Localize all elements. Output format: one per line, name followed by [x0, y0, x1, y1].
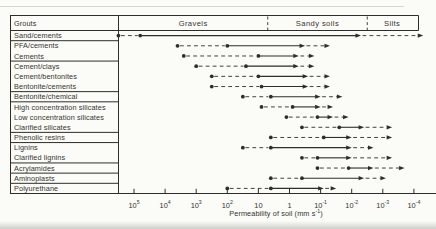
arrowhead	[346, 156, 352, 160]
arrowhead	[309, 64, 315, 68]
grout-label: Cements	[14, 52, 44, 61]
grout-label: Bentonite/chemical	[14, 92, 78, 101]
grout-label: Phenolic resins	[14, 133, 65, 142]
arrowhead	[324, 74, 330, 78]
arrowhead	[359, 176, 365, 180]
arrowhead	[303, 84, 309, 88]
range-line	[269, 135, 392, 139]
axis-tick-label: 1	[287, 201, 291, 210]
arrowhead	[328, 115, 334, 119]
range-line	[284, 115, 348, 119]
axis-ticks: 10510410310210110-110-210-310-4	[128, 189, 420, 210]
soil-class-label: Sandy soils	[296, 19, 339, 28]
range-lines	[117, 33, 424, 190]
soil-class-label: Silts	[384, 19, 400, 28]
grout-label: Low concentration silicates	[14, 113, 104, 122]
range-line	[117, 33, 424, 37]
arrowhead	[328, 105, 334, 109]
range-start-dot	[284, 115, 288, 119]
range-start-dot	[176, 44, 180, 48]
arrowhead	[324, 84, 330, 88]
axis-tick-label: 10-2	[345, 199, 358, 210]
range-start-dot	[210, 74, 214, 78]
grout-label: High concentration silicates	[14, 103, 106, 112]
grout-label: PFA/cements	[14, 41, 59, 50]
range-line	[194, 64, 314, 68]
arrowhead	[346, 135, 352, 139]
x-axis-title-close: )	[320, 209, 323, 218]
axis-tick-label: 10	[254, 201, 262, 210]
range-start-dot	[316, 166, 320, 170]
axis-tick-label: 103	[191, 199, 202, 210]
arrowhead	[380, 176, 386, 180]
range-line	[269, 176, 386, 180]
range-line	[210, 74, 330, 78]
axis-tick-label: 105	[128, 199, 139, 210]
soil-class-band: GravelsSandy soilsSilts	[179, 17, 401, 31]
range-line	[300, 125, 392, 129]
axis-tick-label: 10-4	[407, 199, 420, 210]
range-start-dot	[182, 54, 186, 58]
range-line	[300, 156, 392, 160]
soil-class-label: Gravels	[179, 19, 208, 28]
grout-label: Lignins	[14, 143, 38, 152]
arrowhead	[293, 64, 299, 68]
axis-tick-label: 104	[160, 199, 171, 210]
grout-label: Sand/cements	[14, 31, 62, 40]
x-axis-title-main: Permeability of soil (mm s	[229, 209, 315, 218]
arrowhead	[343, 115, 349, 119]
arrowhead	[356, 33, 362, 37]
range-line	[182, 54, 315, 58]
range-line	[225, 186, 336, 190]
range-start-dot	[269, 176, 273, 180]
arrowhead	[324, 44, 330, 48]
range-line	[260, 105, 333, 109]
range-line	[241, 146, 374, 150]
arrowhead	[346, 146, 352, 150]
range-start-dot	[117, 34, 121, 38]
permeability-grout-chart: Grouts Permeability of soil (mm s-1) Gra…	[0, 0, 436, 229]
range-start-dot	[269, 136, 273, 140]
arrowhead	[399, 166, 405, 170]
grout-label: Polyurethane	[14, 184, 58, 193]
grout-label: Cement/bentonites	[14, 72, 77, 81]
grout-label: Bentonite/cements	[14, 82, 76, 91]
arrowhead	[368, 166, 374, 170]
grout-label: Cement/clays	[14, 62, 60, 71]
range-start-dot	[260, 105, 264, 109]
arrowhead	[315, 105, 321, 109]
grout-label: Aminoplasts	[14, 174, 55, 183]
axis-tick-label: 10-1	[314, 199, 327, 210]
arrowhead	[387, 135, 393, 139]
arrowhead	[368, 146, 374, 150]
range-line	[210, 84, 330, 88]
arrowhead	[387, 156, 393, 160]
grout-label: Clarified lignins	[14, 153, 65, 162]
range-line	[241, 95, 342, 99]
range-start-dot	[241, 95, 245, 99]
range-start-dot	[194, 64, 198, 68]
arrowhead	[387, 125, 393, 129]
arrowhead	[331, 186, 337, 190]
arrowhead	[303, 74, 309, 78]
axis-tick-label: 10-3	[376, 199, 389, 210]
range-start-dot	[300, 125, 304, 129]
arrowhead	[359, 125, 365, 129]
grouts-header-label: Grouts	[14, 19, 37, 28]
range-start-dot	[241, 146, 245, 150]
scan-edge-bottom	[0, 221, 436, 229]
arrowhead	[315, 95, 321, 99]
arrowhead	[309, 54, 315, 58]
arrowhead	[418, 33, 424, 37]
arrowhead	[300, 44, 306, 48]
grout-label-column: Sand/cementsPFA/cementsCementsCement/cla…	[11, 31, 119, 193]
x-axis-title: Permeability of soil (mm s-1)	[229, 208, 322, 218]
arrowhead	[293, 54, 299, 58]
range-start-dot	[210, 85, 214, 89]
range-start-dot	[300, 156, 304, 160]
range-line	[176, 44, 330, 48]
range-line	[316, 166, 405, 170]
arrowhead	[337, 95, 343, 99]
grout-label: Clarified silicates	[14, 123, 71, 132]
grout-label: Acrylamides	[14, 164, 55, 173]
